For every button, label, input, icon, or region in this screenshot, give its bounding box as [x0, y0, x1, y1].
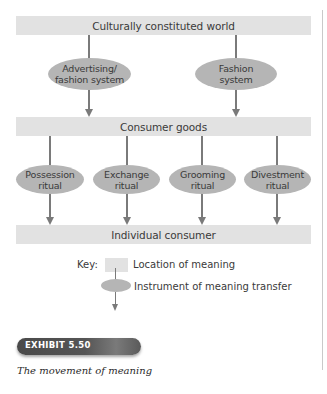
key-location-label: Location of meaning: [133, 259, 235, 270]
location-individual-consumer: Individual consumer: [16, 225, 311, 244]
arrow-down-icon: [85, 109, 93, 117]
instrument-label: Grooming: [180, 169, 225, 180]
instrument-fashion-system: Fashion system: [195, 58, 277, 90]
instrument-label: ritual: [115, 180, 139, 191]
connector-line: [235, 90, 237, 110]
instrument-label: Exchange: [104, 169, 149, 180]
instrument-grooming-ritual: Grooming ritual: [169, 165, 236, 194]
key-location-swatch: [105, 258, 128, 272]
instrument-label: ritual: [38, 180, 62, 191]
instrument-exchange-ritual: Exchange ritual: [93, 165, 160, 194]
instrument-label: Fashion: [219, 63, 253, 74]
connector-line: [276, 136, 278, 165]
exhibit-badge: EXHIBIT 5.50: [17, 338, 141, 355]
connector-line: [88, 35, 90, 58]
instrument-label: ritual: [191, 180, 215, 191]
arrow-down-icon: [123, 217, 131, 225]
connector-line: [235, 35, 237, 58]
connector-line: [49, 193, 51, 218]
key-instrument-swatch: [101, 279, 131, 292]
key-instrument-label: Instrument of meaning transfer: [134, 281, 292, 292]
instrument-label: fashion system: [55, 74, 124, 85]
location-label: Consumer goods: [120, 121, 207, 133]
arrow-down-icon: [273, 217, 281, 225]
location-label: Individual consumer: [111, 229, 216, 241]
page-rule: [322, 10, 323, 370]
connector-line: [276, 193, 278, 218]
connector-line: [126, 136, 128, 165]
instrument-label: Possession: [25, 169, 74, 180]
exhibit-badge-label: EXHIBIT 5.50: [25, 340, 91, 350]
exhibit-caption: The movement of meaning: [17, 365, 152, 376]
arrow-down-icon: [46, 217, 54, 225]
location-consumer-goods: Consumer goods: [16, 117, 311, 136]
arrow-down-icon: [232, 109, 240, 117]
connector-line: [49, 136, 51, 165]
instrument-label: system: [219, 74, 252, 85]
key-title: Key:: [77, 259, 98, 270]
connector-line: [126, 193, 128, 218]
instrument-label: ritual: [266, 180, 290, 191]
location-culturally-constituted-world: Culturally constituted world: [16, 16, 311, 35]
connector-line: [88, 90, 90, 110]
instrument-possession-ritual: Possession ritual: [16, 165, 84, 194]
instrument-divestment-ritual: Divestment ritual: [244, 165, 311, 194]
arrow-down-icon: [198, 217, 206, 225]
instrument-label: Divestment: [251, 169, 304, 180]
instrument-label: Advertising/: [62, 63, 117, 74]
instrument-advertising-fashion-system: Advertising/ fashion system: [48, 58, 131, 90]
connector-line: [201, 136, 203, 165]
location-label: Culturally constituted world: [92, 20, 235, 32]
key-arrow-down-icon: [112, 304, 118, 311]
connector-line: [201, 193, 203, 218]
